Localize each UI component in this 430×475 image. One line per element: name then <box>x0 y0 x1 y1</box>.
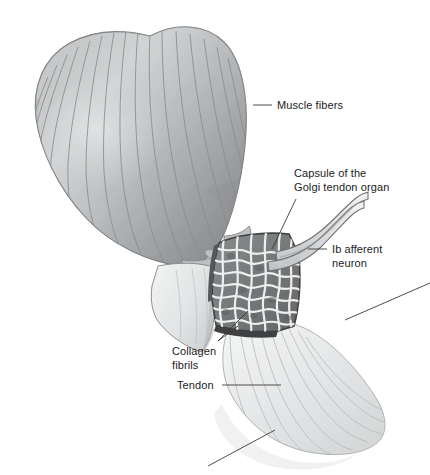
label-tendon: Tendon <box>177 379 214 393</box>
label-collagen-fibrils: Collagenfibrils <box>172 345 216 372</box>
label-line: Collagen <box>172 345 216 359</box>
label-line: Ib afferent <box>332 243 382 257</box>
muscle-belly <box>20 20 251 274</box>
anatomical-illustration <box>0 0 430 475</box>
label-line: Muscle fibers <box>277 99 343 113</box>
label-ib-afferent-neuron: Ib afferentneuron <box>332 243 382 270</box>
label-line: Tendon <box>177 379 214 393</box>
cut-tendon-flap <box>151 263 216 352</box>
label-muscle-fibers: Muscle fibers <box>277 99 343 113</box>
label-line: Golgi tendon organ <box>294 181 389 195</box>
label-line: neuron <box>332 257 382 271</box>
label-line: fibrils <box>172 359 216 373</box>
label-line: Capsule of the <box>294 167 389 181</box>
label-capsule-golgi-tendon-organ: Capsule of theGolgi tendon organ <box>294 167 389 194</box>
golgi-tendon-organ-figure: Muscle fibersCapsule of theGolgi tendon … <box>0 0 430 475</box>
